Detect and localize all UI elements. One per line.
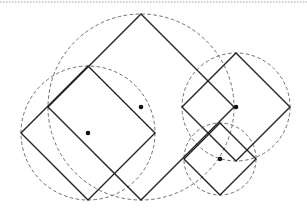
diagram-canvas xyxy=(0,0,307,218)
center-dot-large xyxy=(139,105,144,110)
center-dot-right xyxy=(234,105,239,110)
center-dots xyxy=(86,105,239,162)
circumscribed-circles xyxy=(21,14,290,200)
rotated-squares xyxy=(21,14,290,200)
center-dot-small xyxy=(218,157,223,162)
center-dot-left xyxy=(86,131,91,136)
